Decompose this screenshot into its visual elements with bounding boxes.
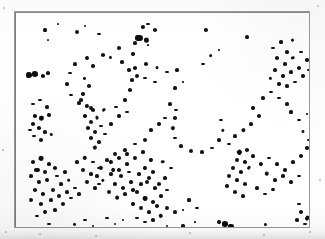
scatter-point (155, 204, 159, 208)
scatter-point (181, 224, 184, 227)
scatter-point (113, 152, 117, 156)
scatter-point (247, 166, 252, 171)
scatter-point (40, 115, 45, 120)
scatter-point (301, 130, 305, 134)
scatter-point (252, 227, 254, 228)
scatter-point (101, 178, 106, 182)
scatter-point (83, 114, 88, 118)
scatter-point (173, 137, 176, 140)
scatter-point (240, 127, 246, 133)
scatter-point (46, 71, 50, 75)
scatter-point (163, 117, 166, 120)
scatter-point (145, 180, 149, 184)
scatter-point (128, 88, 132, 92)
scatter-point (149, 158, 154, 163)
scatter-point (141, 25, 146, 30)
scatter-point (89, 136, 93, 140)
scatter-point (182, 81, 185, 83)
scatter-point (117, 156, 121, 160)
scatter-point (75, 160, 79, 164)
scatter-point (123, 98, 127, 102)
scatter-point (195, 207, 198, 210)
scatter-point (73, 222, 78, 226)
scatter-point (43, 170, 47, 174)
scatter-point (303, 223, 306, 226)
scatter-point (233, 190, 237, 194)
scatter-point (77, 192, 81, 195)
scatter-point (57, 23, 59, 25)
scatter-point (299, 154, 303, 158)
scatter-point (61, 202, 65, 206)
scatter-point (153, 28, 157, 32)
scan-speck (319, 179, 321, 181)
scatter-point (99, 125, 102, 128)
scatter-point (114, 106, 117, 109)
scatter-point (53, 166, 57, 170)
scatter-point (219, 119, 222, 122)
scatter-point (151, 218, 155, 222)
scatter-point (309, 79, 310, 82)
scan-speck (263, 234, 266, 237)
scatter-point (235, 158, 239, 162)
scatter-point (79, 98, 83, 101)
scan-speck (309, 231, 311, 233)
scatter-point (227, 174, 231, 178)
scatter-point (84, 55, 90, 61)
scatter-point (153, 186, 157, 189)
page-bottom-shadow (0, 230, 325, 239)
scatter-point (201, 63, 204, 66)
scatter-point (289, 110, 292, 113)
plot-frame (14, 11, 310, 228)
scatter-point (43, 28, 46, 31)
scatter-point (83, 76, 87, 79)
scatter-point (159, 214, 163, 219)
scatter-point (51, 188, 55, 192)
scatter-point (26, 72, 32, 77)
scatter-point (159, 194, 163, 197)
scatter-point (281, 174, 284, 177)
scatter-point (217, 138, 221, 142)
scatter-point (283, 168, 286, 171)
scatter-point (170, 125, 175, 130)
scatter-point (95, 174, 99, 178)
scatter-point (89, 172, 93, 175)
scatter-point (67, 178, 70, 182)
scatter-point (129, 180, 133, 183)
scatter-point (291, 38, 295, 42)
scatter-point (37, 180, 42, 185)
scatter-point (165, 189, 168, 192)
scatter-point (135, 217, 138, 220)
scatter-point (285, 50, 289, 53)
scatter-point (277, 82, 280, 85)
scan-speck (39, 233, 41, 235)
scan-speck (317, 5, 319, 7)
scatter-point (297, 175, 300, 178)
scatter-point (306, 113, 309, 115)
scatter-point (285, 102, 289, 106)
scatter-point (121, 186, 125, 190)
scatter-point (107, 190, 111, 194)
scatter-point (144, 62, 148, 66)
scan-speck (189, 232, 191, 234)
scatter-point (265, 172, 270, 177)
scatter-point (228, 224, 233, 228)
scatter-point (127, 68, 130, 71)
scatter-point (143, 138, 147, 142)
scatter-point (174, 109, 177, 112)
scatter-point (277, 97, 280, 100)
scatter-point (210, 147, 213, 150)
scatter-point (151, 170, 155, 174)
scatter-point (73, 187, 76, 190)
scatter-point (85, 180, 89, 184)
scatter-point (133, 66, 137, 70)
scatter-point (307, 139, 310, 142)
scatter-point (304, 215, 310, 221)
scatter-point (122, 219, 124, 221)
scatter-point (65, 190, 69, 193)
scatter-point (263, 193, 266, 196)
scatter-point (151, 200, 155, 204)
scatter-point (49, 132, 52, 135)
scatter-point (227, 143, 230, 146)
scatter-point (117, 114, 120, 117)
scan-speck (3, 7, 5, 9)
